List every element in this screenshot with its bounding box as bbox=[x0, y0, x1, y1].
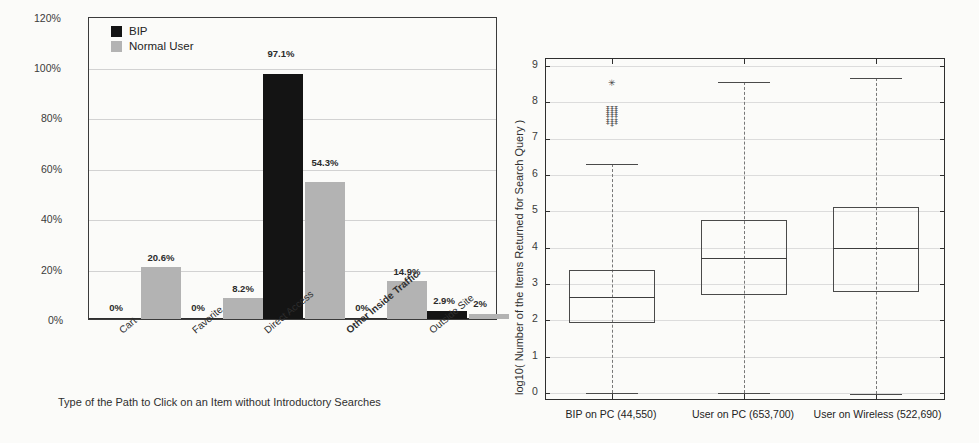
box-ytick-mark-5 bbox=[545, 211, 550, 212]
box-ytick-mark-right-8 bbox=[940, 102, 945, 103]
bar-chart-legend: BIP Normal User bbox=[111, 25, 194, 55]
bar-bip-direct-access bbox=[263, 74, 303, 319]
box-ytick-6: 6 bbox=[532, 167, 538, 179]
legend-label-bip: BIP bbox=[129, 25, 148, 37]
box3-upper-cap bbox=[850, 78, 902, 79]
bar-chart-panel: 120% 100% 80% 60% 40% 20% 0% Percentage … bbox=[0, 0, 505, 443]
bar-normal-favorite bbox=[223, 298, 263, 319]
box-ytick-0: 0 bbox=[532, 385, 538, 397]
box-y-axis-title: log10( Number of the Items Returned for … bbox=[513, 120, 525, 395]
bar-value-bip-direct-access: 97.1% bbox=[259, 48, 303, 59]
box1-lower-cap bbox=[586, 393, 638, 394]
box-ytick-mark-right-9 bbox=[940, 66, 945, 67]
box-ytick-mark-right-5 bbox=[940, 211, 945, 212]
box-plot-panel: 9 8 7 6 5 4 3 2 1 0 log10( Number of the… bbox=[505, 0, 979, 443]
box-ytick-8: 8 bbox=[532, 94, 538, 106]
box-ytick-mark-right-4 bbox=[940, 248, 945, 249]
box-ytick-2: 2 bbox=[532, 312, 538, 324]
bar-normal-cart bbox=[141, 267, 181, 319]
box-ytick-7: 7 bbox=[532, 130, 538, 142]
bar-ytick-60: 60% bbox=[41, 163, 62, 175]
box-ytick-mark-right-6 bbox=[940, 175, 945, 176]
bar-ytick-0: 0% bbox=[48, 314, 63, 326]
bar-normal-outside-site bbox=[469, 314, 509, 319]
box-ytick-mark-right-2 bbox=[940, 320, 945, 321]
box-ytick-mark-7 bbox=[545, 139, 550, 140]
bar-ytick-20: 20% bbox=[41, 264, 62, 276]
box-xtick-mark-2 bbox=[744, 394, 745, 400]
box-ytick-9: 9 bbox=[532, 58, 538, 70]
bar-value-normal-direct-access: 54.3% bbox=[301, 157, 349, 168]
box-gridline-9 bbox=[546, 66, 944, 67]
box-ytick-mark-3 bbox=[545, 284, 550, 285]
legend-swatch-normal-user-icon bbox=[111, 41, 122, 52]
legend-label-normal-user: Normal User bbox=[129, 40, 194, 52]
box2-upper-cap bbox=[718, 82, 770, 83]
box-xtick-mark-top-3 bbox=[876, 58, 877, 64]
box-ytick-mark-right-0 bbox=[940, 393, 945, 394]
box3-iqr-rect bbox=[833, 207, 919, 292]
box-gridline-6 bbox=[546, 175, 944, 176]
box-ytick-mark-right-7 bbox=[940, 139, 945, 140]
box3-lower-cap bbox=[850, 394, 902, 395]
box-ytick-mark-6 bbox=[545, 175, 550, 176]
box2-median-line bbox=[701, 258, 787, 259]
box2-lower-cap bbox=[718, 393, 770, 394]
box1-upper-cap bbox=[586, 164, 638, 165]
box-ytick-3: 3 bbox=[532, 276, 538, 288]
bar-x-axis-title: Type of the Path to Click on an Item wit… bbox=[58, 396, 381, 408]
figure-canvas: 120% 100% 80% 60% 40% 20% 0% Percentage … bbox=[0, 0, 979, 443]
box-ytick-mark-8 bbox=[545, 102, 550, 103]
bar-value-normal-cart: 20.6% bbox=[137, 252, 185, 263]
box-xtick-mark-1 bbox=[612, 394, 613, 400]
box-xtick-mark-top-1 bbox=[612, 58, 613, 64]
bar-ytick-120: 120% bbox=[34, 12, 61, 24]
box-ytick-mark-right-1 bbox=[940, 357, 945, 358]
box-ytick-4: 4 bbox=[532, 240, 538, 252]
legend-item-bip: BIP bbox=[111, 25, 194, 37]
bar-ytick-100: 100% bbox=[34, 62, 61, 74]
box-xtick-mark-top-2 bbox=[744, 58, 745, 64]
box-ytick-mark-1 bbox=[545, 357, 550, 358]
bar-ytick-80: 80% bbox=[41, 112, 62, 124]
box1-median-line bbox=[569, 297, 655, 298]
box-ytick-1: 1 bbox=[532, 349, 538, 361]
box-ytick-mark-9 bbox=[545, 66, 550, 67]
box-xlabel-user-on-wireless: User on Wireless (522,690) bbox=[790, 408, 965, 420]
gridline-100 bbox=[89, 69, 496, 70]
box-ytick-5: 5 bbox=[532, 203, 538, 215]
legend-item-normal-user: Normal User bbox=[111, 40, 194, 52]
box3-median-line bbox=[833, 248, 919, 249]
box-gridline-1 bbox=[546, 357, 944, 358]
box-ytick-mark-0 bbox=[545, 393, 550, 394]
box1-extreme-outlier: ✳ bbox=[608, 79, 616, 88]
box-ytick-mark-right-3 bbox=[940, 284, 945, 285]
box-gridline-8 bbox=[546, 102, 944, 103]
box1-outlier-cluster: ++++++++++++++++++++++++++++ bbox=[604, 106, 620, 164]
bar-ytick-40: 40% bbox=[41, 213, 62, 225]
box-ytick-mark-2 bbox=[545, 320, 550, 321]
box-plot-area: ++++++++++++++++++++++++++++ ✳ bbox=[545, 58, 945, 400]
bar-plot-area: 0% 20.6% 0% 8.2% 97.1% 54.3% 0% 14.9% 2.… bbox=[88, 17, 497, 320]
bar-value-normal-favorite: 8.2% bbox=[219, 283, 267, 294]
box-ytick-mark-4 bbox=[545, 248, 550, 249]
bar-value-bip-cart: 0% bbox=[95, 302, 137, 313]
legend-swatch-bip-icon bbox=[111, 26, 122, 37]
